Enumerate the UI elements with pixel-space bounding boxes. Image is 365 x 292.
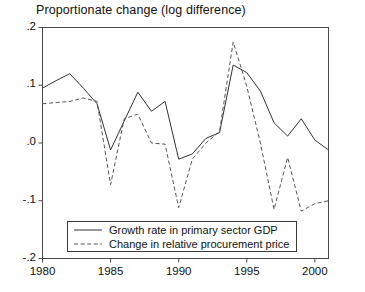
x-tick-label: 1990 [154,265,204,277]
chart-legend: Growth rate in primary sector GDP Change… [67,221,297,252]
data-series-line-1 [43,42,329,211]
y-tick-label: -.2 [8,251,36,263]
y-tick-label: -.1 [8,193,36,205]
legend-item-1: Change in relative procurement price [73,237,289,251]
data-series-line-0 [43,65,329,159]
chart-figure: Proportionate change (log difference) .2… [0,0,365,292]
y-tick-label: .2 [8,20,36,32]
legend-label-0: Growth rate in primary sector GDP [109,224,278,236]
x-tick-marks [43,259,315,263]
legend-item-0: Growth rate in primary sector GDP [73,223,278,237]
legend-key-dashed-line-icon [73,239,103,249]
x-tick-label: 1985 [86,265,136,277]
x-tick-label: 1980 [18,265,68,277]
y-tick-label: .0 [8,135,36,147]
x-tick-label: 1995 [222,265,272,277]
y-tick-label: .1 [8,77,36,89]
legend-key-solid-line-icon [73,225,103,235]
data-series-group [43,42,329,211]
legend-label-1: Change in relative procurement price [109,238,289,250]
x-tick-label: 2000 [290,265,340,277]
y-tick-marks [39,28,43,259]
